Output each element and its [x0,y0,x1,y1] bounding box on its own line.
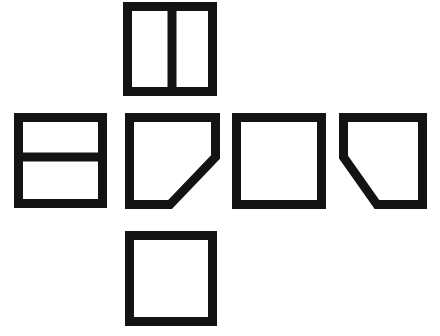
panel-top-svg [123,2,217,96]
panel-bottom-outline [130,236,213,322]
panel-right-inner-outline [237,118,322,205]
panel-center-outline [130,118,216,205]
panel-right-inner-square-blank [232,113,326,209]
panel-center-square-corner-cut-bottom-right [125,113,220,209]
panel-right-outer-square-corner-cut-bottom-left [339,113,427,209]
panel-right-outer-svg [339,113,427,209]
panel-bottom-svg [125,231,217,326]
panel-bottom-square-blank [125,231,217,326]
cube-net-figure [0,0,440,336]
panel-center-svg [125,113,220,209]
panel-top-square-split-vertical [123,2,217,96]
panel-left-svg [14,113,107,208]
panel-right-inner-svg [232,113,326,209]
panel-left-square-split-horizontal [14,113,107,208]
panel-right-outer-outline [344,118,423,205]
